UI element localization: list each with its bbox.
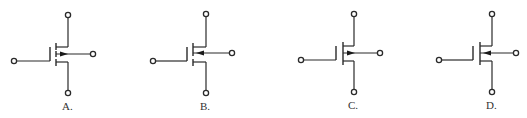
arrow-right-icon	[347, 50, 355, 55]
option-label-d: D.	[486, 99, 497, 111]
gate-terminal-icon	[298, 57, 303, 62]
substrate-terminal-icon	[90, 51, 95, 56]
substrate-terminal-icon	[513, 50, 518, 55]
source-terminal-icon	[489, 89, 494, 94]
drain-terminal-icon	[351, 11, 356, 16]
option-label-c: C.	[348, 99, 358, 111]
drain-terminal-icon	[489, 11, 494, 16]
substrate-terminal-icon	[377, 50, 382, 55]
substrate-terminal-icon	[229, 50, 234, 55]
arrow-left-icon	[483, 50, 491, 55]
drain-terminal-icon	[65, 12, 70, 17]
mosfet-symbols-diagram: A. B. C. D.	[0, 0, 527, 118]
option-label-a: A.	[62, 100, 73, 112]
mosfet-symbol-d	[436, 11, 518, 94]
source-terminal-icon	[65, 90, 70, 95]
gate-terminal-icon	[150, 58, 155, 63]
source-terminal-icon	[351, 89, 356, 94]
option-label-b: B.	[200, 100, 210, 112]
source-terminal-icon	[203, 90, 208, 95]
mosfet-symbol-c	[298, 11, 382, 94]
gate-terminal-icon	[436, 57, 441, 62]
drain-terminal-icon	[203, 11, 208, 16]
mosfet-symbol-a	[11, 12, 95, 95]
gate-terminal-icon	[11, 58, 16, 63]
mosfet-symbol-b	[150, 11, 234, 95]
arrow-right-icon	[60, 51, 68, 56]
arrow-left-icon	[196, 50, 204, 55]
